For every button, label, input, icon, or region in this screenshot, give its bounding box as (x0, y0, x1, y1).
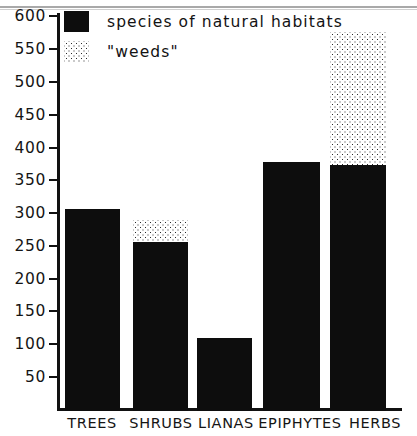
legend-swatch-solid-icon (64, 11, 89, 32)
bar-segment-shrubs-weeds (133, 220, 188, 242)
bar-segment-herbs-natural (330, 165, 386, 411)
bar-segment-herbs-weeds (330, 32, 386, 165)
bar-segment-trees-natural (65, 209, 120, 411)
x-tick-label-shrubs: SHRUBS (124, 415, 198, 431)
legend-label-natural-habitats: species of natural habitats (107, 13, 343, 31)
legend-item-natural-habitats: species of natural habitats (64, 11, 343, 32)
plot-area (0, 0, 417, 436)
legend-item-weeds: "weeds" (64, 41, 179, 62)
x-tick-label-lianas: LIANAS (191, 415, 261, 431)
bar-epiphytes[interactable] (263, 162, 320, 411)
bar-segment-shrubs-natural (133, 242, 188, 411)
species-bar-chart: 600 550 500 450 400 350 300 250 200 150 … (0, 0, 417, 436)
bar-herbs[interactable] (330, 32, 386, 411)
bar-segment-lianas-natural (197, 338, 252, 411)
bar-lianas[interactable] (197, 338, 252, 411)
bar-shrubs[interactable] (133, 220, 188, 411)
bar-segment-epiphytes-natural (263, 162, 320, 411)
x-tick-label-epiphytes: EPIPHYTES (253, 415, 347, 431)
x-tick-label-trees: TREES (57, 415, 127, 431)
bar-trees[interactable] (65, 209, 120, 411)
legend-swatch-stipple-icon (64, 41, 89, 62)
legend-label-weeds: "weeds" (107, 43, 179, 61)
x-tick-label-herbs: HERBS (340, 415, 410, 431)
